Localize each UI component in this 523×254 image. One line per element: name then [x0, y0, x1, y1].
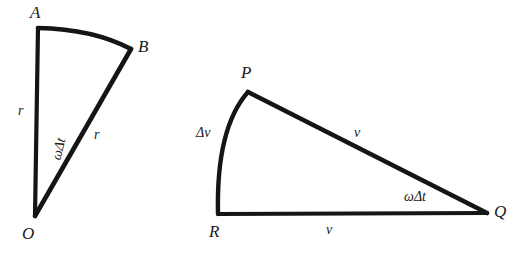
- vertex-label-R: R: [209, 223, 219, 240]
- right-velocity-shape: [218, 92, 487, 214]
- vertex-label-Q: Q: [494, 203, 506, 220]
- vertex-label-A: A: [30, 4, 40, 21]
- vertex-label-B: B: [138, 38, 148, 55]
- edge-RQ-line: [218, 213, 487, 214]
- angle-label-PQR: ωΔt: [404, 190, 426, 204]
- edge-label-OB-radius: r: [94, 128, 99, 142]
- physics-figure: A B O r r ωΔt P Q R v v Δv ωΔt: [0, 0, 523, 254]
- figure-canvas: [0, 0, 523, 254]
- edge-OB-line: [35, 49, 131, 216]
- edge-label-RP-delta-v: Δv: [196, 126, 210, 140]
- edge-label-OA-radius: r: [18, 104, 23, 118]
- edge-PQ-line: [248, 92, 487, 213]
- left-sector-shape: [35, 28, 131, 216]
- vertex-label-O: O: [22, 225, 34, 242]
- edge-AB-arc: [38, 28, 131, 49]
- edge-label-RQ-velocity: v: [326, 223, 332, 237]
- edge-RP-arc: [218, 92, 248, 214]
- vertex-label-P: P: [241, 64, 251, 81]
- edge-label-PQ-velocity: v: [354, 126, 360, 140]
- edge-OA-line: [35, 28, 38, 216]
